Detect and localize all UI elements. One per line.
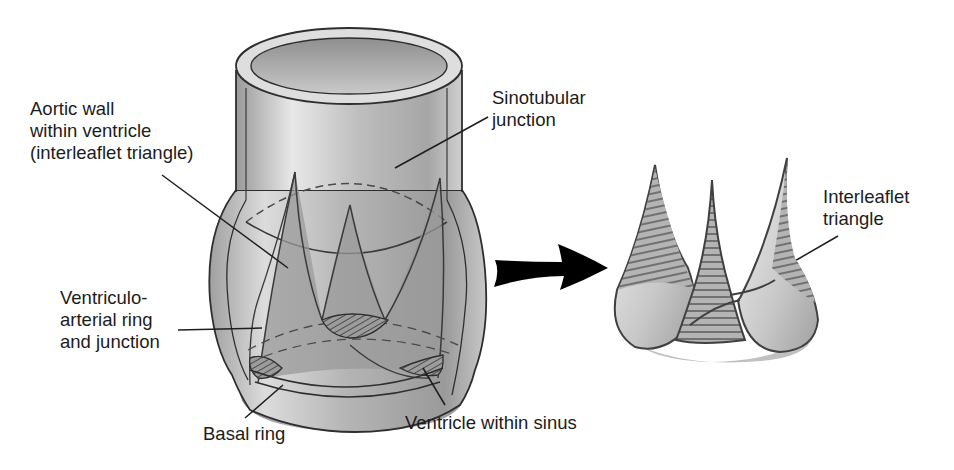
- label-basal-ring: Basal ring: [203, 423, 285, 445]
- label-ventriculo-arterial-ring: Ventriculo- arterial ring and junction: [60, 287, 160, 353]
- leader-interleaflet: [793, 236, 838, 262]
- label-ventricle-within-sinus: Ventricle within sinus: [405, 412, 577, 434]
- aortic-root-diagram: [0, 0, 954, 470]
- label-aortic-wall: Aortic wall within ventricle (interleafl…: [30, 98, 194, 164]
- left-triangle-hatch: [618, 168, 695, 290]
- interleaflet-triangles-model: [615, 158, 818, 362]
- label-sinotubular-junction: Sinotubular junction: [492, 87, 586, 131]
- aortic-root-model: [209, 28, 486, 432]
- label-interleaflet-triangle: Interleaflet triangle: [823, 186, 909, 230]
- transform-arrow-icon: [494, 244, 608, 290]
- aorta-lumen: [251, 38, 447, 94]
- middle-commissure: [676, 180, 745, 343]
